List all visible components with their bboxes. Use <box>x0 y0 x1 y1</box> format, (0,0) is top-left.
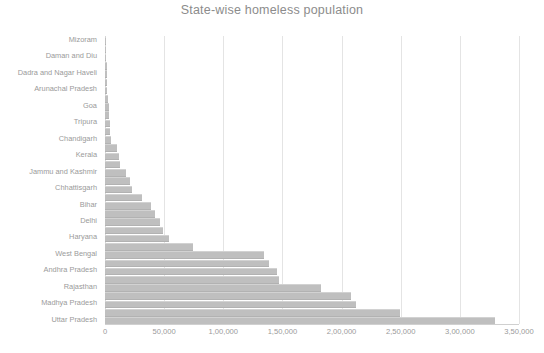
bar[interactable] <box>105 62 107 70</box>
x-axis-tick-label: 50,000 <box>153 327 176 336</box>
bar[interactable] <box>105 144 117 152</box>
x-axis-tick-label: 2,00,000 <box>327 327 357 336</box>
plot-area <box>105 36 519 324</box>
bar[interactable] <box>105 46 106 54</box>
bar[interactable] <box>105 292 351 300</box>
bar[interactable] <box>105 186 132 194</box>
bar[interactable] <box>105 301 356 309</box>
gridline <box>519 36 520 324</box>
y-axis-tick-label: Goa <box>0 101 101 111</box>
x-axis-tick-label: 1,00,000 <box>209 327 239 336</box>
x-axis-tick-label: 2,50,000 <box>386 327 416 336</box>
bar[interactable] <box>105 227 163 235</box>
x-axis-tick-label: 3,50,000 <box>504 327 534 336</box>
bar[interactable] <box>105 136 111 144</box>
bar[interactable] <box>105 70 107 78</box>
bar[interactable] <box>105 87 107 95</box>
bar[interactable] <box>105 95 108 103</box>
y-axis-tick-label: Mizoram <box>0 35 101 45</box>
bar[interactable] <box>105 161 120 169</box>
y-axis-tick-label: Delhi <box>0 216 101 226</box>
bar[interactable] <box>105 243 193 251</box>
bar[interactable] <box>105 153 119 161</box>
bar[interactable] <box>105 169 126 177</box>
y-axis-tick-label: Arunachal Pradesh <box>0 84 101 94</box>
bar[interactable] <box>105 210 155 218</box>
y-axis-tick-label: Madhya Pradesh <box>0 298 101 308</box>
y-axis-tick-label: Andhra Pradesh <box>0 265 101 275</box>
bar[interactable] <box>105 54 106 62</box>
x-axis-tick-label: 3,00,000 <box>445 327 475 336</box>
x-axis-tick-label: 1,50,000 <box>268 327 298 336</box>
bar[interactable] <box>105 194 142 202</box>
x-axis-labels: 050,0001,00,0001,50,0002,00,0002,50,0003… <box>0 327 544 341</box>
bar-series <box>105 36 519 324</box>
y-axis-tick-label: Rajasthan <box>0 282 101 292</box>
bar[interactable] <box>105 37 106 45</box>
bar[interactable] <box>105 103 109 111</box>
y-axis-tick-label: Uttar Pradesh <box>0 315 101 325</box>
x-axis-tick-label: 0 <box>103 327 107 336</box>
chart-title: State-wise homeless population <box>0 3 544 17</box>
y-axis-tick-label: Daman and Diu <box>0 51 101 61</box>
y-axis-tick-label: Kerala <box>0 150 101 160</box>
bar[interactable] <box>105 111 109 119</box>
bar[interactable] <box>105 268 277 276</box>
y-axis-tick-label: Chandigarh <box>0 134 101 144</box>
y-axis-tick-label: West Bengal <box>0 249 101 259</box>
y-axis-tick-label: Tripura <box>0 117 101 127</box>
bar[interactable] <box>105 120 110 128</box>
bar[interactable] <box>105 309 400 317</box>
y-axis-tick-label: Chhattisgarh <box>0 183 101 193</box>
bar[interactable] <box>105 251 264 259</box>
y-axis-tick-label: Haryana <box>0 232 101 242</box>
bar[interactable] <box>105 276 279 284</box>
bar[interactable] <box>105 79 107 87</box>
bar[interactable] <box>105 128 110 136</box>
y-axis-tick-label: Bihar <box>0 200 101 210</box>
x-axis-line <box>105 324 519 325</box>
bar[interactable] <box>105 218 160 226</box>
bar[interactable] <box>105 177 130 185</box>
y-axis-tick-label: Dadra and Nagar Haveli <box>0 68 101 78</box>
bar[interactable] <box>105 202 151 210</box>
y-axis-labels: MizoramDaman and DiuDadra and Nagar Have… <box>0 36 101 324</box>
bar[interactable] <box>105 260 269 268</box>
bar[interactable] <box>105 284 321 292</box>
chart-container: State-wise homeless population MizoramDa… <box>0 0 544 353</box>
bar[interactable] <box>105 235 169 243</box>
y-axis-tick-label: Jammu and Kashmir <box>0 167 101 177</box>
